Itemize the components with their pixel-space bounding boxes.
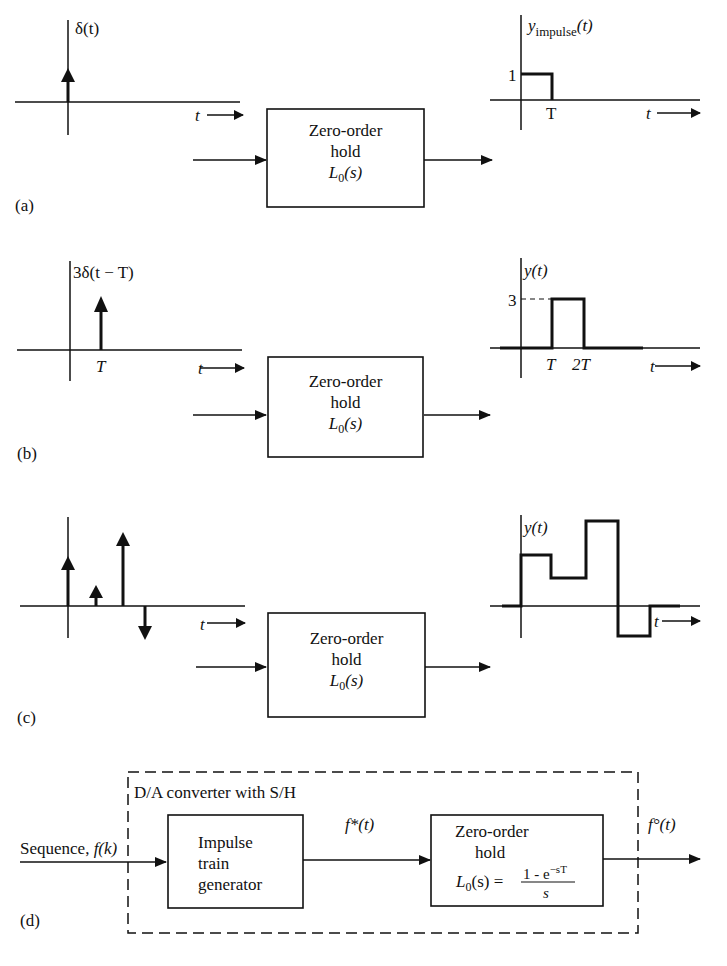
t-axis-label-c: t [200,616,205,633]
transfer-fn-b: L0(s) [268,413,423,440]
impulse-arrow-icon [61,556,75,570]
output-t-axis-label-c: t [654,613,659,630]
zoh-label-d: Zero-order hold [455,821,529,863]
output-t-axis-label-a: t [646,105,651,122]
output-tick-b-2T: 2T [572,356,590,373]
transfer-denominator-d: s [543,886,549,901]
transfer-numerator-d: 1 - e−sT [523,864,567,882]
output-pulse-a [521,74,552,100]
impulse-arrow-icon [94,296,108,312]
transfer-fn-a: L0(s) [267,162,424,189]
output-tick-a: T [546,105,556,122]
t-axis-label-a: t [195,107,200,124]
mid-signal-label: f*(t) [345,816,374,833]
panel-label-a: (a) [15,196,34,216]
sequence-input-label: Sequence, f(k) [20,840,117,857]
impulse-arrow-icon [116,532,130,546]
panel-label-d: (d) [20,911,40,931]
zoh-label-c: Zero-order hold L0(s) [268,628,425,697]
output-label-a: yimpulse(t) [528,17,593,38]
input-label-b: 3δ(t − T) [73,264,134,281]
output-label-b: y(t) [524,262,548,279]
output-label-c: y(t) [524,519,548,536]
zoh-label-b: Zero-order hold L0(s) [268,371,423,440]
input-label-a: δ(t) [75,20,99,37]
impulse-train-label: Impulse train generator [198,832,262,895]
output-level-a: 1 [508,67,517,84]
impulse-arrow-icon [138,626,152,640]
output-tick-b-T: T [546,356,555,373]
panel-d [20,772,700,933]
panel-label-b: (b) [17,444,37,464]
input-tick-b: T [96,358,105,375]
output-t-axis-label-b: t [650,358,655,375]
impulse-arrow-icon [89,585,103,598]
output-signal-label: f°(t) [648,816,676,833]
output-level-b: 3 [508,292,517,309]
panel-label-c: (c) [17,708,36,728]
impulse-arrow-icon [61,68,75,82]
zoh-label-a: Zero-order hold L0(s) [267,120,424,189]
container-label-d: D/A converter with S/H [134,784,296,801]
transfer-fn-d: L0(s) = [456,873,503,893]
t-axis-label-b: t [198,360,203,377]
transfer-fn-c: L0(s) [268,670,425,697]
